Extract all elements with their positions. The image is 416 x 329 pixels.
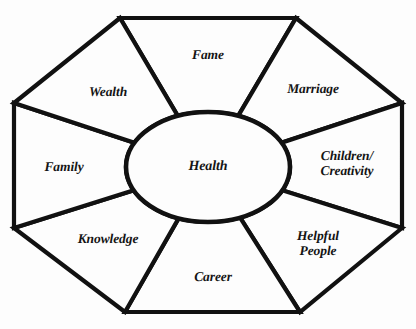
bagua-diagram: Health FameMarriageChildren/ CreativityH… xyxy=(0,0,416,329)
sector-label-fame: Fame xyxy=(192,48,224,63)
sector-label-marriage: Marriage xyxy=(287,82,339,97)
sector-label-family: Family xyxy=(44,160,83,175)
sector-label-career: Career xyxy=(194,270,232,285)
sector-label-children-creativity: Children/ Creativity xyxy=(321,148,374,178)
sector-label-wealth: Wealth xyxy=(89,85,127,100)
sector-label-helpful-people: Helpful People xyxy=(297,228,339,258)
center-label-health: Health xyxy=(188,159,227,174)
sector-label-knowledge: Knowledge xyxy=(78,232,139,247)
